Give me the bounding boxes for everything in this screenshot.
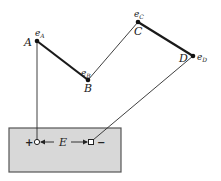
emf-label: E: [58, 136, 67, 149]
potential-label-a: eA: [35, 28, 45, 39]
wire-b-to-c: [88, 22, 138, 80]
label-d: D: [178, 52, 188, 65]
potential-label-d: eD: [197, 52, 207, 63]
circuit-diagram: A eA B eB C eC D eD + E −: [0, 0, 221, 181]
node-a: [35, 39, 40, 44]
potential-label-b: eB: [81, 68, 91, 79]
node-c: [136, 20, 141, 25]
wire-d-to-negative: [93, 56, 193, 140]
positive-terminal: [34, 139, 39, 144]
emf-source-box: [9, 128, 121, 172]
potential-label-c: eC: [134, 9, 144, 20]
label-a: A: [23, 36, 32, 49]
node-d: [191, 54, 196, 59]
negative-terminal: [89, 140, 94, 145]
label-b: B: [83, 82, 92, 95]
label-c: C: [134, 25, 143, 38]
segment-c-d: [138, 22, 193, 56]
positive-sign: +: [25, 137, 33, 148]
negative-sign: −: [97, 137, 105, 148]
